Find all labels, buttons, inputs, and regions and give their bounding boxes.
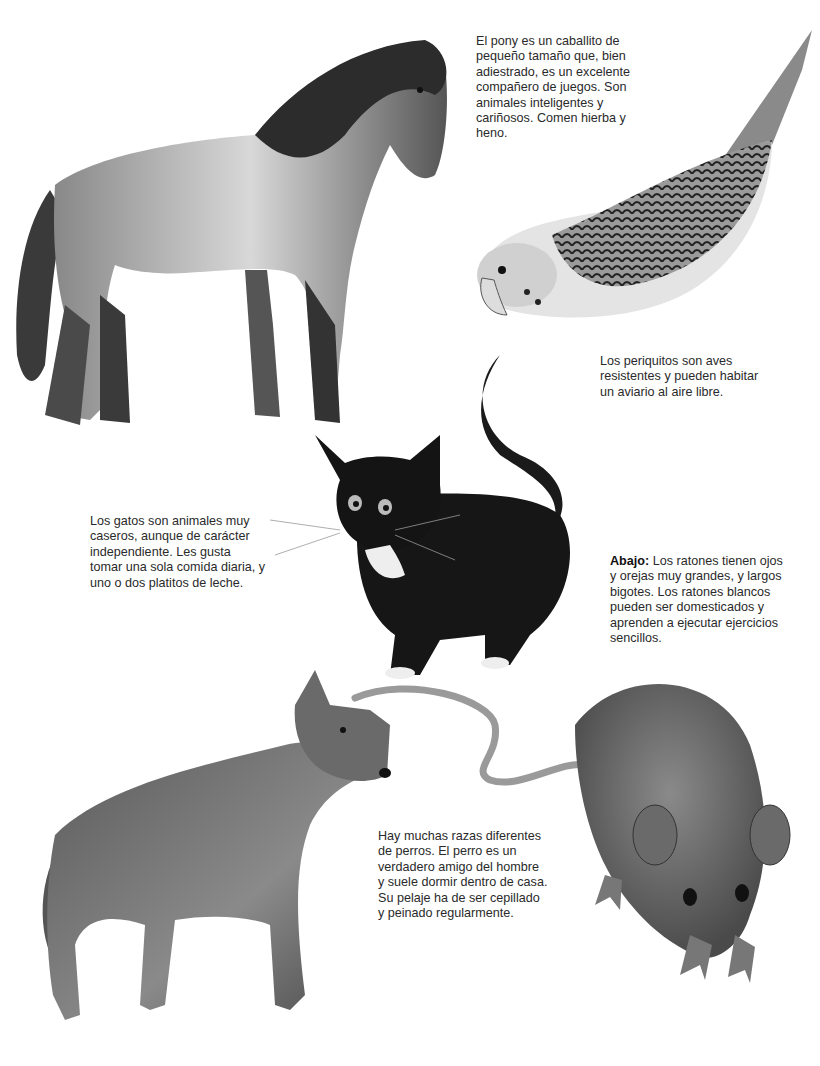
parakeet-caption: Los periquitos son aves resistentes y pu… bbox=[600, 354, 770, 400]
dog-illustration bbox=[25, 665, 395, 1045]
mouse-illustration bbox=[350, 665, 795, 995]
cat-illustration bbox=[270, 345, 590, 690]
mouse-caption: Abajo: Los ratones tienen ojos y orejas … bbox=[610, 554, 785, 646]
cat-caption: Los gatos son animales muy caseros, aunq… bbox=[90, 514, 265, 591]
parakeet-illustration bbox=[472, 30, 817, 330]
mouse-caption-lead: Abajo: bbox=[610, 554, 649, 568]
